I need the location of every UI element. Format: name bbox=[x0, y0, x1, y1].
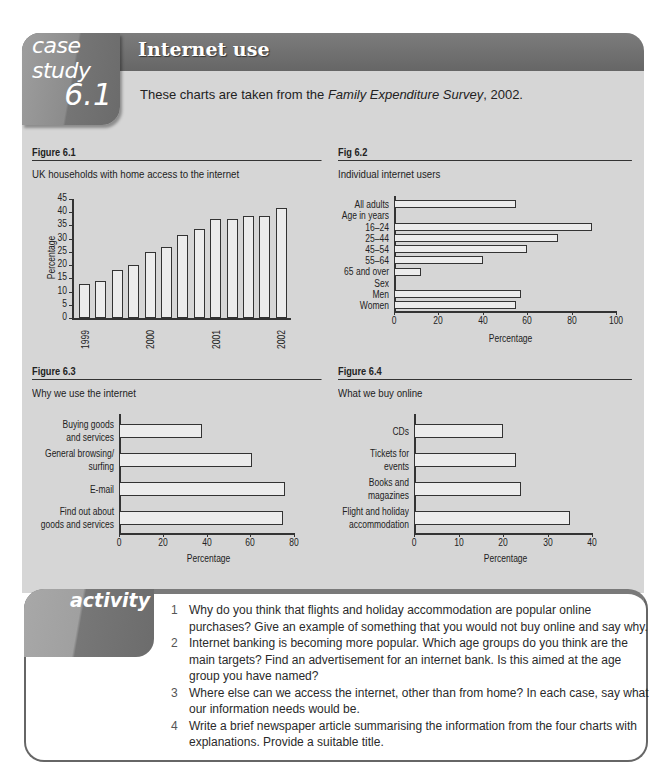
bar bbox=[119, 482, 285, 496]
y-tick bbox=[69, 239, 72, 240]
bar bbox=[119, 424, 202, 438]
bar bbox=[161, 247, 172, 318]
bar bbox=[394, 245, 527, 253]
bar bbox=[227, 219, 238, 318]
x-axis-title: Percentage bbox=[484, 553, 527, 564]
x-tick-label: 20 bbox=[493, 537, 513, 548]
case-study-tab: case study 6.1 bbox=[22, 33, 120, 125]
x-tick-label: 2001 bbox=[210, 328, 221, 352]
y-tick-label: 5 bbox=[55, 298, 67, 309]
y-tick bbox=[69, 278, 72, 279]
category-label: Women bbox=[253, 300, 389, 311]
y-tick bbox=[69, 252, 72, 253]
category-label-line: Books and bbox=[273, 476, 409, 489]
bar bbox=[414, 511, 570, 525]
figure-title: Why we use the internet bbox=[32, 387, 287, 399]
x-tick-label: 20 bbox=[153, 537, 173, 548]
figure-number: Figure 6.3 bbox=[32, 365, 322, 380]
category-label-line: events bbox=[273, 460, 409, 473]
category-label-line: Men bbox=[253, 289, 389, 300]
y-axis-title: Percentage bbox=[46, 236, 57, 279]
bar bbox=[414, 453, 516, 467]
category-label-line: General browsing/ bbox=[0, 447, 114, 460]
category-label: Tickets forevents bbox=[273, 447, 409, 473]
category-label-line: magazines bbox=[273, 489, 409, 502]
question-number: 2 bbox=[171, 635, 178, 652]
bar bbox=[194, 229, 205, 318]
category-label-line: 45–54 bbox=[253, 244, 389, 255]
category-label-line: Find out about bbox=[0, 505, 114, 518]
bar bbox=[128, 265, 139, 318]
bar bbox=[394, 256, 483, 264]
y-tick bbox=[69, 318, 72, 319]
x-tick-label: 40 bbox=[473, 315, 493, 326]
bar bbox=[394, 223, 592, 231]
x-tick-label: 60 bbox=[517, 315, 537, 326]
y-tick-label: 45 bbox=[55, 192, 67, 203]
category-label-line: 55–64 bbox=[253, 255, 389, 266]
x-tick-label: 60 bbox=[240, 537, 260, 548]
question-item: 2Internet banking is becoming more popul… bbox=[171, 635, 651, 685]
category-label-line: Tickets for bbox=[273, 447, 409, 460]
category-label: General browsing/surfing bbox=[0, 447, 114, 473]
category-label-line: surfing bbox=[0, 460, 114, 473]
figure-title: UK households with home access to the in… bbox=[32, 168, 287, 180]
question-number: 1 bbox=[171, 602, 178, 619]
activity-label: activity bbox=[70, 589, 150, 611]
y-tick-label: 10 bbox=[55, 285, 67, 296]
category-label: Flight and holidayaccommodation bbox=[273, 505, 409, 531]
intro-text-start: These charts are taken from the bbox=[140, 87, 328, 102]
activity-box: activity 1Why do you think that flights … bbox=[24, 589, 648, 762]
x-tick-label: 20 bbox=[428, 315, 448, 326]
category-label-line: CDs bbox=[273, 425, 409, 438]
figure-number: Figure 6.4 bbox=[338, 365, 632, 380]
bar bbox=[145, 252, 156, 318]
category-label: Find out aboutgoods and services bbox=[0, 505, 114, 531]
x-tick-label: 2002 bbox=[276, 328, 287, 352]
x-tick-label: 80 bbox=[284, 537, 304, 548]
category-label: Books andmagazines bbox=[273, 476, 409, 502]
bar bbox=[210, 219, 221, 318]
category-label: 25–44 bbox=[253, 233, 389, 244]
x-tick-label: 40 bbox=[196, 537, 216, 548]
y-tick bbox=[69, 199, 72, 200]
figure-title: What we buy online bbox=[338, 387, 597, 399]
category-label-line: Flight and holiday bbox=[273, 505, 409, 518]
intro-source-title: Family Expenditure Survey bbox=[328, 87, 483, 102]
bar bbox=[394, 234, 558, 242]
page-title: Internet use bbox=[138, 38, 269, 60]
figure-number: Fig 6.2 bbox=[338, 146, 632, 161]
category-label: All adults bbox=[253, 199, 389, 210]
question-number: 4 bbox=[171, 718, 178, 735]
category-label: 45–54 bbox=[253, 244, 389, 255]
category-label-line: Buying goods bbox=[0, 418, 114, 431]
figure-6-2: Fig 6.2 Individual internet users bbox=[338, 146, 632, 180]
case-study-number: 6.1 bbox=[64, 77, 112, 112]
x-tick-label: 1999 bbox=[79, 328, 90, 352]
bar bbox=[79, 284, 90, 318]
question-number: 3 bbox=[171, 685, 178, 702]
x-axis-title: Percentage bbox=[187, 553, 230, 564]
y-tick-label: 0 bbox=[55, 311, 67, 322]
case-study-label: case study bbox=[32, 33, 120, 83]
bar bbox=[414, 482, 521, 496]
question-list: 1Why do you think that flights and holid… bbox=[171, 602, 651, 751]
question-text: Write a brief newspaper article summaris… bbox=[189, 719, 637, 750]
question-item: 4Write a brief newspaper article summari… bbox=[171, 718, 651, 751]
x-tick-label: 2000 bbox=[145, 328, 156, 352]
category-label-line: Sex bbox=[253, 278, 389, 289]
activity-tab: activity bbox=[24, 589, 154, 657]
bar bbox=[394, 200, 516, 208]
y-tick-label: 40 bbox=[55, 205, 67, 216]
category-label: 55–64 bbox=[253, 255, 389, 266]
x-axis bbox=[394, 311, 617, 313]
category-label-line: accommodation bbox=[273, 518, 409, 531]
category-label-line: All adults bbox=[253, 199, 389, 210]
y-tick bbox=[69, 265, 72, 266]
category-label: 16–24 bbox=[253, 222, 389, 233]
x-tick-label: 100 bbox=[606, 315, 626, 326]
category-label: Age in years bbox=[253, 210, 389, 221]
x-tick-label: 10 bbox=[448, 537, 468, 548]
x-tick-label: 0 bbox=[109, 537, 129, 548]
x-axis bbox=[72, 318, 291, 320]
